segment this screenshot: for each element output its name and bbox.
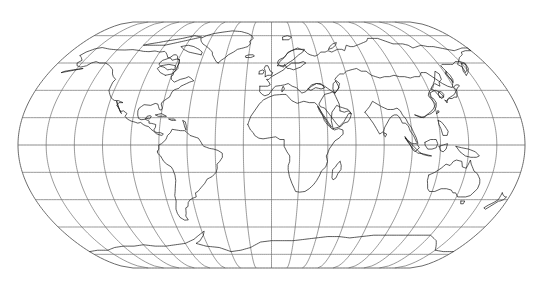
- world-map-figure: [0, 0, 543, 292]
- map-canvas: [0, 0, 543, 292]
